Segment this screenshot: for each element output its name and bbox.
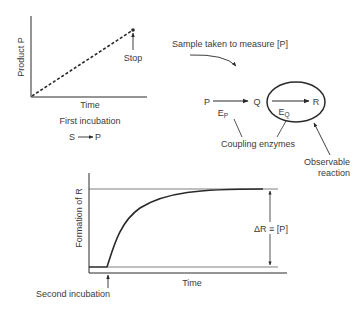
first-incubation-caption: First incubation xyxy=(59,116,120,126)
formation-curve xyxy=(89,189,263,267)
second-incubation-caption: Second incubation xyxy=(36,289,110,299)
species-r: R xyxy=(313,97,320,107)
coupling-scheme: P Q EP R EQ Coupling enzymes Observable … xyxy=(204,82,350,178)
enzyme-p: EP xyxy=(218,108,228,119)
delta-label: ΔR ≡ [P] xyxy=(254,224,288,234)
y-axis-label: Product P xyxy=(16,37,26,77)
observable-label-line2: reaction xyxy=(318,168,350,178)
sample-note: Sample taken to measure [P] xyxy=(172,39,288,66)
y-axis-label: Formation of R xyxy=(74,188,84,248)
x-axis-label: Time xyxy=(80,100,100,110)
x-axis-label: Time xyxy=(182,278,202,288)
product-line-dashed xyxy=(32,30,133,96)
leader-ep xyxy=(234,119,242,137)
observable-arrow xyxy=(314,123,330,155)
species-q: Q xyxy=(253,97,260,107)
second-incubation-plot: ΔR ≡ [P] Formation of R Time Second incu… xyxy=(36,173,294,299)
first-incubation-plot: Stop Product P Time First incubation S P xyxy=(16,16,147,142)
observable-label-line1: Observable xyxy=(304,157,350,167)
coupled-assay-diagram: Stop Product P Time First incubation S P… xyxy=(0,0,364,310)
stop-label: Stop xyxy=(124,53,143,63)
sample-note-text: Sample taken to measure [P] xyxy=(172,39,288,49)
sample-curved-arrow xyxy=(190,55,236,66)
leader-eq xyxy=(277,121,286,137)
coupling-enzymes-label: Coupling enzymes xyxy=(221,139,296,149)
reaction-to: P xyxy=(95,132,101,142)
species-p: P xyxy=(204,97,210,107)
reaction-from: S xyxy=(69,132,75,142)
enzyme-q: EQ xyxy=(278,107,289,119)
stop-point xyxy=(131,28,135,32)
